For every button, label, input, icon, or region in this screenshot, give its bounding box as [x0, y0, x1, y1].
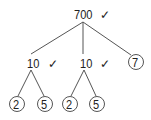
root-value: 700	[74, 8, 92, 21]
node-10-left: 10	[27, 57, 39, 70]
edge-700-10a	[31, 22, 83, 54]
check-icon: ✓	[100, 9, 110, 21]
leaf-5-left: 5	[41, 98, 47, 111]
edge-10b-5	[84, 70, 96, 96]
leaf-5-right: 5	[93, 98, 99, 111]
check-icon: ✓	[48, 58, 58, 70]
node-7: 7	[132, 56, 138, 69]
node-10-middle: 10	[80, 57, 92, 70]
leaf-2-right: 2	[66, 98, 72, 111]
leaf-2-left: 2	[13, 98, 19, 111]
check-icon: ✓	[100, 58, 110, 70]
edge-10a-2	[18, 70, 31, 96]
edge-700-7	[83, 22, 131, 55]
edge-10a-5	[31, 70, 44, 96]
edge-10b-2	[71, 70, 84, 96]
